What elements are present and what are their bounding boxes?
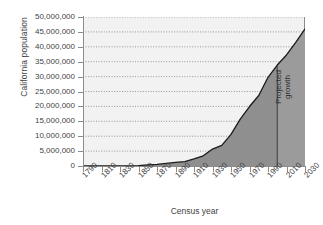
california-population-chart: California population 05,000,00010,000,0… bbox=[0, 0, 323, 225]
y-tick-mark bbox=[78, 106, 83, 107]
y-tick-mark bbox=[78, 47, 83, 48]
y-tick-label: 5,000,000 bbox=[39, 147, 75, 155]
projected-growth-line1: Projected bbox=[274, 70, 283, 104]
chart-canvas bbox=[83, 17, 305, 166]
y-tick-label: 40,000,000 bbox=[35, 43, 75, 51]
y-tick-mark bbox=[78, 136, 83, 137]
y-tick-mark bbox=[78, 62, 83, 63]
y-tick-label: 35,000,000 bbox=[35, 58, 75, 66]
y-tick-label: 15,000,000 bbox=[35, 117, 75, 125]
projected-growth-line2: growth bbox=[283, 75, 292, 99]
x-axis-title: Census year bbox=[83, 206, 306, 216]
y-tick-mark bbox=[78, 17, 83, 18]
y-tick-label: 45,000,000 bbox=[35, 28, 75, 36]
y-tick-mark bbox=[78, 121, 83, 122]
y-axis-line bbox=[83, 16, 84, 167]
y-tick-label: 30,000,000 bbox=[35, 73, 75, 81]
y-tick-label: 20,000,000 bbox=[35, 102, 75, 110]
y-tick-label: 25,000,000 bbox=[35, 88, 75, 96]
projected-growth-label: Projected growth bbox=[274, 52, 292, 122]
y-tick-label: 50,000,000 bbox=[35, 13, 75, 21]
x-tick-label: 2030 bbox=[303, 161, 321, 179]
y-tick-mark bbox=[78, 32, 83, 33]
y-tick-label: 0 bbox=[71, 162, 75, 170]
y-tick-mark bbox=[78, 151, 83, 152]
plot-area bbox=[83, 17, 305, 166]
y-tick-mark bbox=[78, 77, 83, 78]
y-tick-mark bbox=[78, 92, 83, 93]
y-axis-tick-labels: 05,000,00010,000,00015,000,00020,000,000… bbox=[0, 0, 80, 225]
y-tick-label: 10,000,000 bbox=[35, 132, 75, 140]
